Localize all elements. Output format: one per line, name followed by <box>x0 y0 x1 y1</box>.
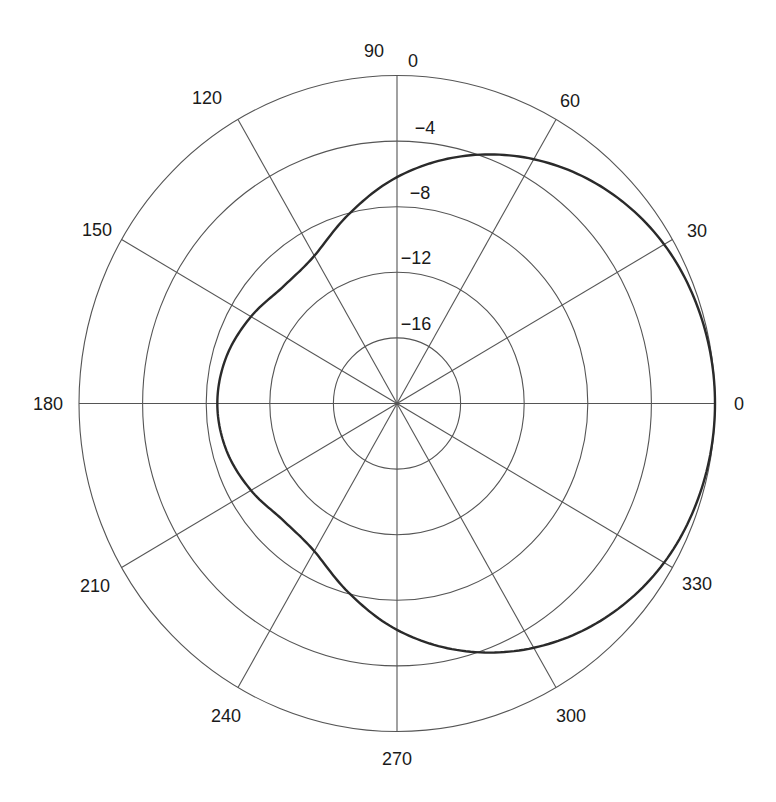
angle-labels: 0 30 60 90 0 120 150 180 210 240 270 300… <box>33 41 744 769</box>
angle-label-0: 0 <box>734 394 744 414</box>
radial-label-minus-12: −12 <box>401 248 432 268</box>
grid-spoke <box>397 240 672 404</box>
angle-label-270: 270 <box>382 749 412 769</box>
polar-chart: 0 30 60 90 0 120 150 180 210 240 270 300… <box>0 0 776 802</box>
angle-label-330: 330 <box>682 574 712 594</box>
angle-label-180: 180 <box>33 394 63 414</box>
grid-spoke <box>238 119 397 403</box>
radial-label-minus-8: −8 <box>410 183 431 203</box>
grid-spoke <box>122 240 397 404</box>
grid-spoke <box>397 404 556 688</box>
radial-labels: −4 −8 −12 −16 <box>401 118 436 334</box>
angle-label-150: 150 <box>82 220 112 240</box>
angle-label-120: 120 <box>192 88 222 108</box>
angle-label-300: 300 <box>556 706 586 726</box>
radial-label-minus-4: −4 <box>415 118 436 138</box>
grid-spoke <box>122 404 397 568</box>
angle-label-60: 60 <box>560 91 580 111</box>
angle-label-30: 30 <box>687 221 707 241</box>
radial-label-minus-16: −16 <box>401 314 432 334</box>
angle-label-90-zero: 0 <box>408 51 418 71</box>
angle-label-240: 240 <box>211 706 241 726</box>
grid-spoke <box>397 404 672 568</box>
angle-label-90: 90 <box>364 41 384 61</box>
grid-spoke <box>238 404 397 688</box>
angle-label-210: 210 <box>80 576 110 596</box>
angular-grid-spokes <box>79 76 715 732</box>
